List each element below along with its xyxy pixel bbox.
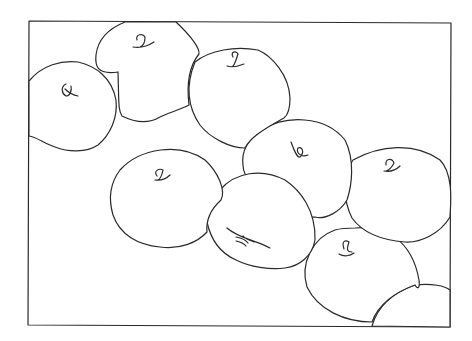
apple-center-left bbox=[111, 149, 223, 247]
apples-drawing bbox=[0, 0, 472, 341]
apple-right-middle bbox=[345, 148, 451, 242]
apple-left bbox=[29, 62, 116, 151]
